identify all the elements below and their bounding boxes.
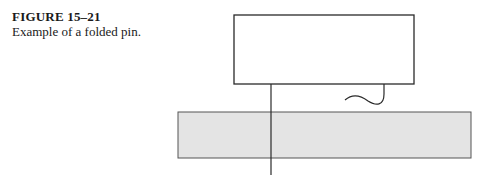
component-body <box>234 15 414 84</box>
circuit-board <box>178 112 471 158</box>
folded-pin <box>345 84 384 104</box>
folded-pin-diagram <box>0 0 488 184</box>
